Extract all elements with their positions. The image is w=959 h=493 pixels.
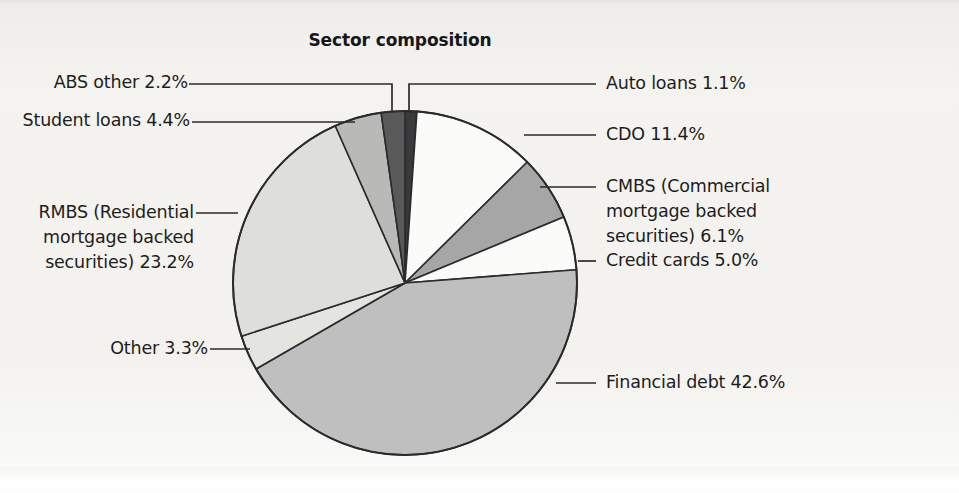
slice-label-cmbs: CMBS (Commercial mortgage backed securit… <box>606 174 906 249</box>
slice-label-abs-other: ABS other 2.2% <box>10 70 188 95</box>
slice-label-auto-loans: Auto loans 1.1% <box>606 71 906 96</box>
slice-label-other: Other 3.3% <box>30 336 208 361</box>
slice-label-rmbs: RMBS (Residential mortgage backed securi… <box>10 200 194 275</box>
slice-label-cdo: CDO 11.4% <box>606 122 906 147</box>
slice-label-student-loans: Student loans 4.4% <box>0 108 190 133</box>
leader-line-abs-other <box>189 84 392 112</box>
pie-chart-figure: Sector composition ABS other 2.2% Studen… <box>0 0 959 493</box>
leader-line-auto-loans <box>409 84 596 112</box>
pie-slices-group <box>233 111 577 455</box>
slice-label-financial-debt: Financial debt 42.6% <box>606 370 926 395</box>
slice-label-credit-cards: Credit cards 5.0% <box>606 248 906 273</box>
